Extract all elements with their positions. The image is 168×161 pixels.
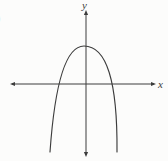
figure-container: ) x y: [0, 0, 168, 161]
y-axis-arrow-bottom-icon: [84, 152, 88, 157]
graph-canvas: x y: [0, 0, 168, 161]
x-axis-label: x: [157, 78, 163, 90]
y-axis-label: y: [81, 0, 87, 11]
x-axis-arrow-left-icon: [10, 82, 15, 86]
x-axis-arrow-right-icon: [151, 82, 156, 86]
parabola-curve: [50, 46, 117, 152]
